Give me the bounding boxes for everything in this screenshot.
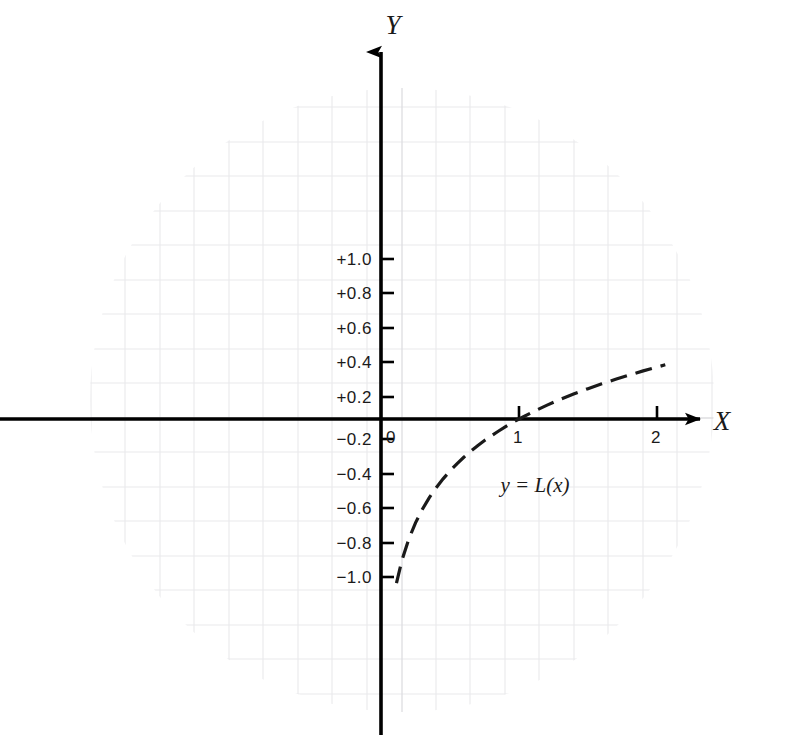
plot-canvas: +1.0 +0.8 +0.6 +0.4 +0.2 −0.2 −0.4 −0.6 … [0,0,795,756]
y-tick-label: −0.8 [336,534,372,553]
grid-lines-major [80,60,730,745]
y-tick-label: −0.6 [336,499,372,518]
x-tick-label: 2 [651,428,661,447]
curve-annotation-label: y = L(x) [499,473,570,497]
y-tick-label: −1.0 [336,568,372,587]
logarithm-graph-figure: +1.0 +0.8 +0.6 +0.4 +0.2 −0.2 −0.4 −0.6 … [0,0,795,756]
y-tick-label: +0.6 [336,319,372,338]
y-tick-label: +0.2 [336,388,372,407]
y-tick-label: −0.2 [336,430,372,449]
y-tick-label: +0.4 [336,353,372,372]
grid-lines-minor [80,60,730,745]
background-grid [80,60,730,745]
x-tick-label: 1 [513,428,523,447]
x-axis-label: X [713,406,732,436]
x-tick-label: 0 [386,428,396,447]
y-axis-label: Y [385,10,403,40]
y-tick-label: −0.4 [336,465,372,484]
y-tick-label: +1.0 [336,250,372,269]
y-tick-label: +0.8 [336,284,372,303]
